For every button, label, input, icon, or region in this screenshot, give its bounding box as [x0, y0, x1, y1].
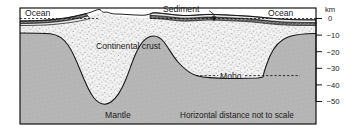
axis-unit-label: km	[325, 5, 335, 14]
axis-tick-label-0: 0	[328, 14, 332, 23]
label-scale-note: Horizontal distance not to scale	[180, 111, 294, 120]
axis-tick-label-30: −30	[327, 64, 340, 73]
label-continental-crust: Continental crust	[96, 41, 161, 51]
axis-tick-label-40: −40	[327, 81, 340, 90]
cross-section-diagram: km 0 −10 −20 −30 −40 −50 Ocean Ocean Sed…	[0, 0, 356, 137]
cross-section-body	[20, 8, 316, 124]
geologic-cross-section-figure: km 0 −10 −20 −30 −40 −50 Ocean Ocean Sed…	[0, 0, 356, 137]
axis-tick-label-10: −10	[327, 31, 340, 40]
label-sediment: Sediment	[163, 4, 200, 14]
label-moho: Moho	[220, 71, 242, 81]
label-ocean-right: Ocean	[268, 8, 294, 18]
label-ocean-left: Ocean	[25, 8, 51, 18]
label-mantle: Mantle	[105, 110, 131, 120]
axis-tick-label-20: −20	[327, 48, 340, 57]
axis-tick-label-50: −50	[327, 97, 340, 106]
depth-axis: km 0 −10 −20 −30 −40 −50	[316, 5, 339, 107]
